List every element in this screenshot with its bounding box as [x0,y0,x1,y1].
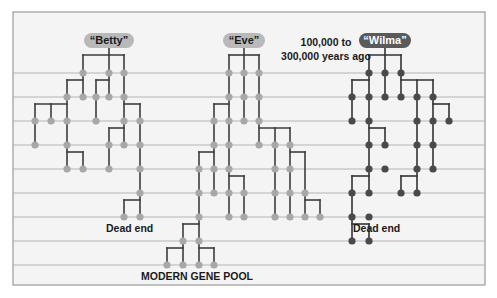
descendant-node [195,261,202,268]
diagram-frame [13,12,485,285]
descendant-node [120,213,127,220]
descendant-node [301,213,308,220]
descendant-node [195,189,202,196]
descendant-node [429,141,436,148]
descendant-node [63,93,70,100]
descendant-node [255,117,262,124]
descendant-node [63,141,70,148]
descendant-node [381,93,388,100]
descendant-node [301,189,308,196]
descendant-node [271,141,278,148]
descendant-node [79,69,86,76]
descendant-node [429,93,436,100]
modern-gene-pool-label: MODERN GENE POOL [141,270,253,282]
descendant-node [195,165,202,172]
descendant-node [105,141,112,148]
descendant-node [365,237,372,244]
descendant-node [271,165,278,172]
descendant-node [47,117,54,124]
descendant-node [429,117,436,124]
betty-lineage-label: “Betty” [84,33,134,48]
descendant-node [365,69,372,76]
descendant-node [286,141,293,148]
descendant-node [31,141,38,148]
descendant-node [225,69,232,76]
time-range-line-1: 100,000 to [278,35,374,49]
descendant-node [210,141,217,148]
descendant-node [381,69,388,76]
time-range-line-2: 300,000 years ago [278,49,374,63]
descendant-node [225,141,232,148]
descendant-node [105,69,112,76]
descendant-node [445,117,452,124]
descendant-node [240,213,247,220]
betty-dead-end-label: Dead end [106,222,153,234]
descendant-node [210,189,217,196]
descendant-node [179,237,186,244]
descendant-node [365,165,372,172]
descendant-node [316,213,323,220]
descendant-node [240,189,247,196]
descendant-node [163,261,170,268]
descendant-node [286,165,293,172]
descendant-node [397,69,404,76]
mitochondrial-eve-diagram: “Betty” “Eve” “Wilma” 100,000 to 300,000… [0,0,497,298]
descendant-node [286,189,293,196]
descendant-node [225,93,232,100]
descendant-node [348,213,355,220]
descendant-node [397,93,404,100]
descendant-node [136,213,143,220]
descendant-node [413,93,420,100]
descendant-node [225,117,232,124]
descendant-node [365,141,372,148]
descendant-node [79,165,86,172]
descendant-node [240,117,247,124]
descendant-node [92,117,99,124]
descendant-node [365,93,372,100]
descendant-node [381,165,388,172]
descendant-node [413,165,420,172]
eve-lineage-label: “Eve” [223,33,265,48]
time-range-label: 100,000 to 300,000 years ago [278,35,374,63]
descendant-node [105,165,112,172]
descendant-node [348,189,355,196]
descendant-node [271,189,278,196]
descendant-node [348,117,355,124]
descendant-node [365,189,372,196]
descendant-node [210,261,217,268]
descendant-node [136,189,143,196]
descendant-node [92,93,99,100]
wilma-dead-end-label: Dead end [353,222,400,234]
descendant-node [255,141,262,148]
descendant-node [286,213,293,220]
descendant-node [120,69,127,76]
descendant-node [120,93,127,100]
descendant-node [31,117,38,124]
descendant-node [413,117,420,124]
descendant-node [348,237,355,244]
descendant-node [120,141,127,148]
descendant-node [413,189,420,196]
descendant-node [195,213,202,220]
descendant-node [136,165,143,172]
descendant-node [120,117,127,124]
descendant-node [63,165,70,172]
descendant-node [381,141,388,148]
descendant-node [79,93,86,100]
descendant-node [136,117,143,124]
descendant-node [240,69,247,76]
descendant-node [179,261,186,268]
descendant-node [225,213,232,220]
descendant-node [413,141,420,148]
descendant-node [225,189,232,196]
descendant-node [210,117,217,124]
descendant-node [240,93,247,100]
descendant-node [105,93,112,100]
descendant-node [348,93,355,100]
descendant-node [195,237,202,244]
descendant-node [63,117,70,124]
descendant-node [365,117,372,124]
descendant-node [255,69,262,76]
descendant-node [429,165,436,172]
descendant-node [255,93,262,100]
